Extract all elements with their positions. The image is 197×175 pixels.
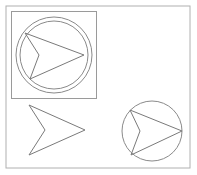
double-circle-outer (16, 17, 92, 93)
arrow-in-single-circle (130, 110, 182, 155)
shape-drawing-canvas: Shape Drawing Canvas Line drawing of arr… (0, 0, 197, 175)
arrow-in-double-circle (25, 33, 84, 79)
figure-svg (0, 0, 197, 175)
standalone-arrow (29, 105, 85, 155)
